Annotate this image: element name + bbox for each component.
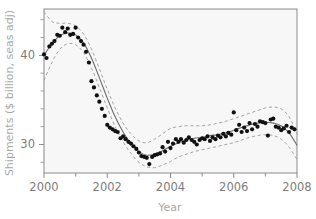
x-tick-label: 2008 xyxy=(282,180,311,194)
data-point xyxy=(137,150,141,154)
data-point xyxy=(95,93,99,97)
data-point xyxy=(242,125,246,129)
data-point xyxy=(240,130,244,134)
data-point xyxy=(160,145,164,149)
y-tick-label: 30 xyxy=(20,137,35,151)
data-point xyxy=(81,43,85,47)
data-point xyxy=(145,156,149,160)
data-point xyxy=(52,39,56,43)
data-point xyxy=(263,121,267,125)
data-point xyxy=(195,142,199,146)
x-tick-label: 2004 xyxy=(156,180,185,194)
data-point xyxy=(163,150,167,154)
data-point xyxy=(255,125,259,129)
data-point xyxy=(134,147,138,151)
data-point xyxy=(76,35,80,39)
data-point xyxy=(44,56,48,60)
y-axis-title: Shipments ($ billion, seas adj) xyxy=(3,10,16,176)
data-point xyxy=(79,39,83,43)
data-point xyxy=(63,30,67,34)
x-tick-label: 2002 xyxy=(93,180,122,194)
x-axis-tick-labels: 20002002200420062008 xyxy=(29,180,311,194)
data-point xyxy=(158,151,162,155)
chart-figure: 3040 20002002200420062008 Year Shipments… xyxy=(0,0,316,219)
x-axis-title: Year xyxy=(157,201,182,214)
data-point xyxy=(208,139,212,143)
data-point xyxy=(247,121,251,125)
x-tick-label: 2000 xyxy=(29,180,58,194)
data-point xyxy=(71,32,75,36)
data-point xyxy=(205,134,209,138)
chart-plot-area: 3040 20002002200420062008 Year Shipments… xyxy=(0,0,316,219)
data-point xyxy=(58,34,62,38)
data-point xyxy=(287,130,291,134)
data-point xyxy=(234,128,238,132)
data-point xyxy=(229,133,233,137)
data-point xyxy=(284,124,288,128)
data-point xyxy=(92,85,96,89)
data-point xyxy=(224,134,228,138)
data-point xyxy=(166,140,170,144)
y-axis-ticks xyxy=(39,20,44,163)
data-point xyxy=(171,141,175,145)
data-point xyxy=(179,137,183,141)
data-point xyxy=(271,117,275,121)
data-point xyxy=(250,127,254,131)
data-point xyxy=(168,146,172,150)
x-axis-ticks xyxy=(44,173,297,178)
data-point xyxy=(89,79,93,83)
y-tick-label: 40 xyxy=(20,48,35,62)
data-point xyxy=(116,130,120,134)
data-point xyxy=(87,60,91,64)
data-point xyxy=(42,52,46,56)
data-point xyxy=(74,26,78,30)
data-point xyxy=(147,162,151,166)
data-point xyxy=(292,127,296,131)
data-point xyxy=(97,100,101,104)
y-axis-tick-labels: 3040 xyxy=(20,48,35,151)
data-point xyxy=(245,129,249,133)
data-point xyxy=(218,135,222,139)
data-point xyxy=(60,26,64,30)
data-point xyxy=(100,107,104,111)
data-point xyxy=(84,50,88,54)
data-point xyxy=(232,110,236,114)
data-point xyxy=(266,133,270,137)
data-point xyxy=(213,137,217,141)
data-point xyxy=(237,123,241,127)
data-point xyxy=(103,114,107,118)
data-point xyxy=(66,27,70,31)
x-tick-label: 2006 xyxy=(219,180,248,194)
